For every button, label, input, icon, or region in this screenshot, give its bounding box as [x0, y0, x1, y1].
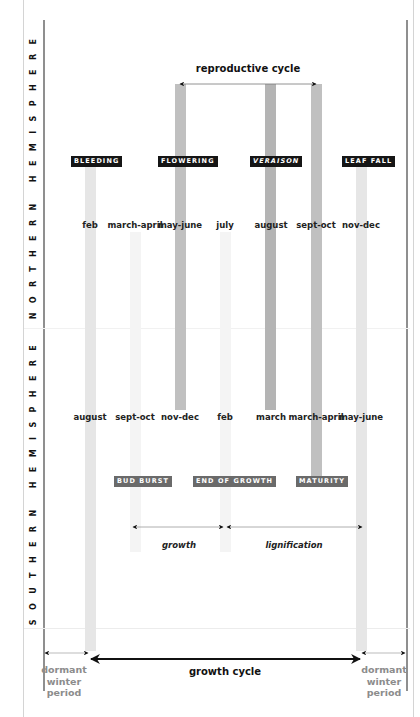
northern-month-4: july [216, 220, 233, 230]
dormant-right-line2: winter [356, 676, 412, 688]
southern-month-5: march [256, 412, 286, 422]
stage-tag-leaf-fall: LEAF FALL [342, 156, 395, 167]
northern-month-3: may-june [158, 220, 202, 230]
dormant-winter-period-left: dormant winter period [36, 664, 92, 699]
stage-tag-bud-burst: BUD BURST [114, 476, 172, 487]
stage-tag-veraison: VERAISON [250, 156, 302, 167]
northern-month-1: feb [82, 220, 98, 230]
stage-tag-maturity: MATURITY [296, 476, 348, 487]
northern-month-2: march-april [107, 220, 162, 230]
dormant-left-line2: winter [36, 676, 92, 688]
dormant-right-line1: dormant [356, 664, 412, 676]
southern-month-2: sept-oct [115, 412, 154, 422]
dormant-left-line1: dormant [36, 664, 92, 676]
dormant-winter-period-right: dormant winter period [356, 664, 412, 699]
lignification-label: lignification [265, 540, 322, 550]
northern-month-7: nov-dec [342, 220, 380, 230]
reproductive-cycle-label: reproductive cycle [196, 63, 300, 74]
stage-tag-flowering: FLOWERING [158, 156, 218, 167]
southern-month-4: feb [217, 412, 233, 422]
growth-label: growth [162, 540, 196, 550]
southern-month-6: march-april [288, 412, 343, 422]
cycle-arrows [0, 0, 420, 717]
stage-tag-bleeding: BLEEDING [71, 156, 122, 167]
stage-tag-end-of-growth: END OF GROWTH [193, 476, 276, 487]
dormant-left-line3: period [36, 687, 92, 699]
northern-month-6: sept-oct [296, 220, 335, 230]
dormant-right-line3: period [356, 687, 412, 699]
southern-month-7: may-june [339, 412, 383, 422]
southern-month-1: august [73, 412, 106, 422]
southern-month-3: nov-dec [161, 412, 199, 422]
growth-cycle-label: growth cycle [189, 666, 261, 677]
northern-month-5: august [254, 220, 287, 230]
